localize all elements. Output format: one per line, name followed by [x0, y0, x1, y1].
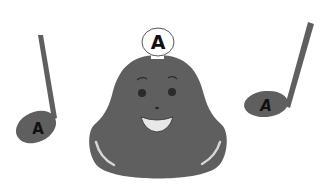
bell-label: A: [151, 31, 166, 53]
left-note-stem: [38, 35, 57, 120]
bell-illustration: A A A: [0, 0, 325, 196]
left-note-label: A: [32, 120, 44, 138]
right-music-note: A: [243, 22, 314, 119]
right-note-label: A: [259, 97, 272, 115]
bell-character: A: [89, 28, 227, 179]
left-eye: [138, 89, 146, 97]
left-music-note: A: [11, 35, 62, 149]
right-eye: [168, 88, 176, 96]
right-note-stem: [285, 22, 314, 108]
nose: [155, 107, 159, 109]
